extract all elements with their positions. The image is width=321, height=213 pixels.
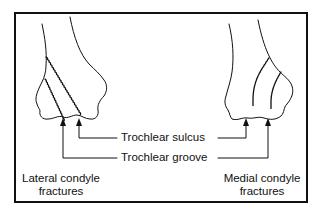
right-humerus-outline xyxy=(225,20,293,120)
left-humerus-outline xyxy=(36,17,107,119)
arrow-up-icon xyxy=(243,118,249,126)
medial-caption-line1: Medial condyle xyxy=(207,172,317,185)
trochlear-groove-label: Trochlear groove xyxy=(121,151,208,164)
trochlear-sulcus-label: Trochlear sulcus xyxy=(121,131,205,144)
arrow-up-icon xyxy=(60,118,66,126)
arrow-up-icon xyxy=(76,118,82,126)
medial-caption-line2: fractures xyxy=(207,185,317,198)
lateral-caption-line2: fractures xyxy=(6,185,116,198)
medial-condyle-caption: Medial condyle fractures xyxy=(207,172,317,198)
right-fracture-lines xyxy=(253,58,281,108)
left-fracture-lines xyxy=(45,57,81,121)
lateral-condyle-caption: Lateral condyle fractures xyxy=(6,172,116,198)
lateral-caption-line1: Lateral condyle xyxy=(6,172,116,185)
